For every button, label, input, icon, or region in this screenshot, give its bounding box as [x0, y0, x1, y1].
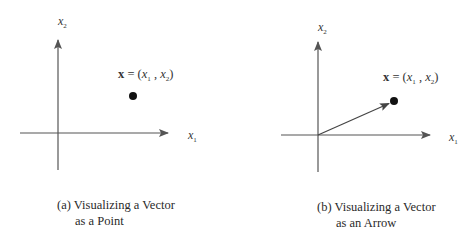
panel-a-vector-point [129, 92, 137, 100]
panel-b-vector-arrow [318, 104, 389, 136]
panel-a: x2 x1 x = (x1 , x2) [20, 14, 197, 170]
panel-b: x2 x1 x = (x1 , x2) [281, 20, 458, 172]
panel-b-caption-line1: (b) Visualizing a Vector [317, 200, 436, 215]
panel-a-caption-line2: as a Point [75, 214, 124, 229]
panel-b-vector-label: x = (x1 , x2) [383, 70, 438, 86]
panel-a-y-axis-label: x2 [57, 14, 67, 30]
panel-a-vector-label: x = (x1 , x2) [118, 67, 173, 83]
panel-b-y-axis-label: x2 [317, 20, 327, 36]
panel-a-caption-line1: (a) Visualizing a Vector [57, 198, 175, 213]
panel-b-x-axis-label: x1 [448, 130, 458, 146]
panel-b-vector-point [390, 97, 398, 105]
panel-b-caption-line2: as an Arrow [336, 216, 396, 231]
panel-a-x-axis-label: x1 [187, 128, 197, 144]
